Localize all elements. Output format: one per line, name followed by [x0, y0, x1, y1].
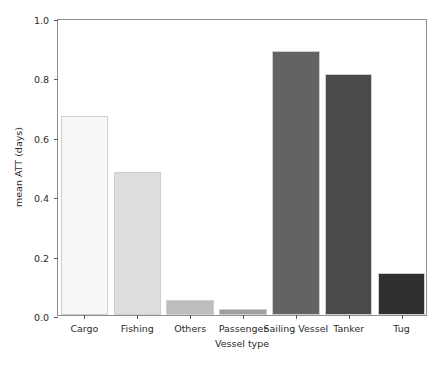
- x-tick-mark: [84, 315, 85, 319]
- bar-passenger: [219, 309, 267, 315]
- y-tick-label: 1.0: [34, 15, 49, 26]
- x-tick-label: Others: [174, 323, 206, 334]
- x-tick-mark: [137, 315, 138, 319]
- y-tick-label: 0.0: [34, 312, 49, 323]
- bar-tug: [378, 273, 426, 315]
- x-tick-mark: [349, 315, 350, 319]
- x-tick-label: Sailing Vessel: [263, 323, 328, 334]
- x-tick-label: Tanker: [333, 323, 364, 334]
- y-tick-label: 0.2: [34, 252, 49, 263]
- y-tick-label: 0.6: [34, 133, 49, 144]
- bar-sailing-vessel: [272, 51, 320, 315]
- y-axis-title: mean ATT (days): [13, 127, 24, 207]
- x-tick-mark: [243, 315, 244, 319]
- x-axis-title: Vessel type: [57, 338, 427, 349]
- y-tick-label: 0.4: [34, 193, 49, 204]
- x-tick-mark: [190, 315, 191, 319]
- x-tick-mark: [402, 315, 403, 319]
- y-tick-label: 0.8: [34, 74, 49, 85]
- x-tick-label: Cargo: [70, 323, 98, 334]
- x-tick-label: Passenger: [219, 323, 268, 334]
- plot-area: 0.00.20.40.60.81.0 CargoFishingOthersPas…: [57, 19, 427, 316]
- bar-series: [58, 20, 426, 315]
- bar-fishing: [114, 172, 162, 315]
- y-tick-mark: [54, 317, 58, 318]
- bar-cargo: [61, 116, 109, 315]
- x-tick-label: Tug: [393, 323, 409, 334]
- bar-others: [166, 300, 214, 315]
- x-tick-mark: [296, 315, 297, 319]
- bar-tanker: [325, 74, 373, 315]
- bar-chart-figure: mean ATT (days) 0.00.20.40.60.81.0 Cargo…: [0, 0, 448, 365]
- x-tick-label: Fishing: [121, 323, 154, 334]
